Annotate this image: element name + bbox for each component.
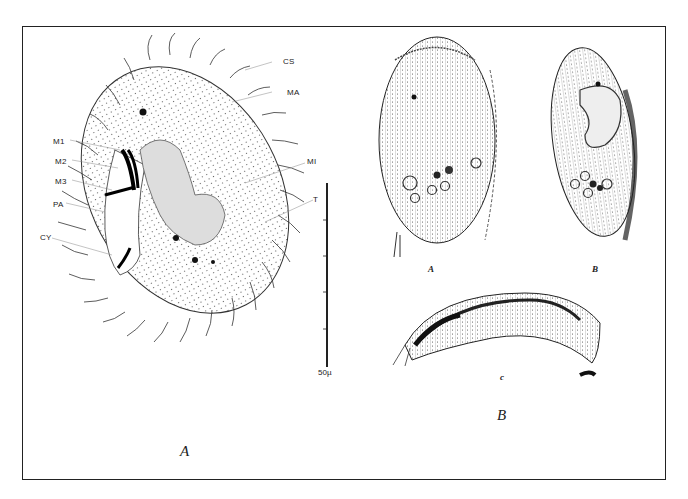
ciliate-ba-drawing bbox=[379, 37, 496, 257]
label-t: T bbox=[313, 195, 318, 204]
panel-label-a: A bbox=[180, 443, 189, 460]
panel-label-b: B bbox=[497, 407, 506, 424]
subpanel-label-a: A bbox=[428, 264, 434, 274]
label-m1: M1 bbox=[53, 137, 65, 146]
subpanel-label-c: c bbox=[500, 372, 504, 382]
scale-bar bbox=[323, 183, 327, 367]
label-ma: MA bbox=[287, 88, 300, 97]
figure-illustrations bbox=[0, 0, 688, 499]
ciliate-bc-drawing bbox=[393, 293, 600, 375]
label-m3: M3 bbox=[55, 177, 67, 186]
label-mi: MI bbox=[307, 157, 317, 166]
scale-bar-label: 50µ bbox=[318, 368, 332, 377]
ciliate-a-drawing bbox=[40, 31, 330, 350]
subpanel-label-b: B bbox=[592, 264, 598, 274]
label-cs: CS bbox=[283, 57, 295, 66]
ciliate-bb-drawing bbox=[540, 42, 646, 241]
label-m2: M2 bbox=[55, 157, 67, 166]
label-pa: PA bbox=[53, 200, 64, 209]
label-cy: CY bbox=[40, 233, 52, 242]
